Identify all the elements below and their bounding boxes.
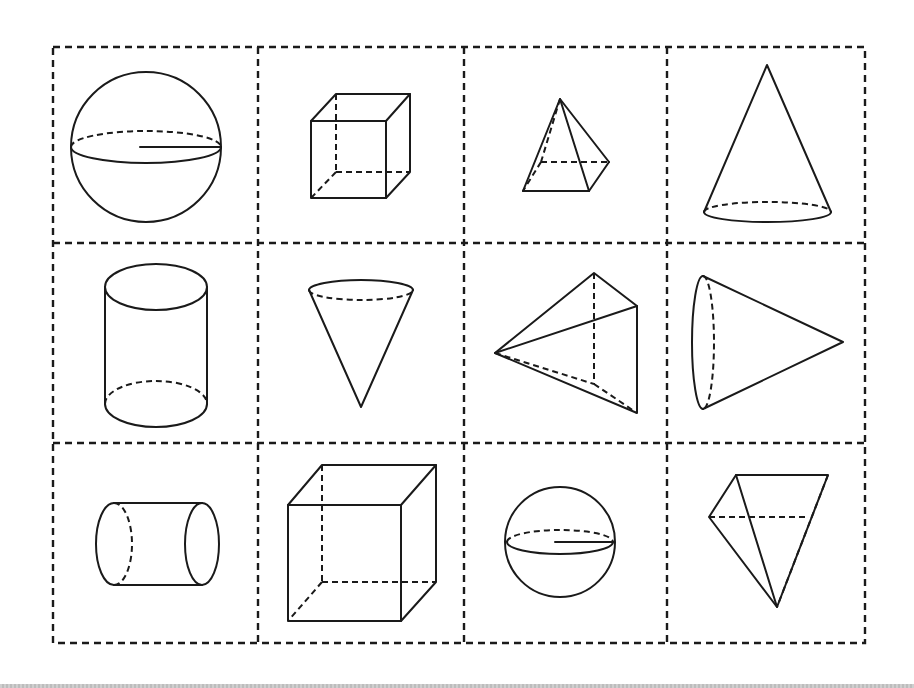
grid-border — [53, 47, 865, 643]
cone-upright — [704, 65, 831, 222]
cone-inverted — [309, 280, 413, 407]
square-pyramid — [523, 99, 609, 191]
cube-large — [288, 465, 436, 621]
scan-edge-strip — [0, 684, 914, 688]
cube-small — [311, 94, 410, 198]
triangular-pyramid — [495, 273, 637, 413]
triangular-pyramid-inverted — [709, 475, 828, 607]
cone-lying — [692, 276, 843, 409]
shapes-sheet — [0, 0, 914, 688]
cylinder-upright — [105, 264, 207, 427]
cylinder-lying — [96, 503, 219, 585]
sphere-small — [505, 487, 615, 597]
cut-grid — [53, 47, 865, 643]
sphere-large — [71, 72, 221, 222]
